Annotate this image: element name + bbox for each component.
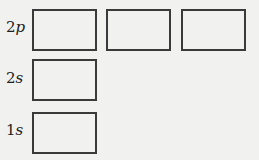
orbital-box-1s xyxy=(32,112,97,154)
orbital-box-2p-2 xyxy=(106,9,171,51)
label-1s: 1s xyxy=(6,121,23,139)
orbital-box-2p-1 xyxy=(32,9,97,51)
label-1s-level: 1 xyxy=(6,121,16,139)
label-2p: 2p xyxy=(6,18,25,36)
label-2s-sublevel: s xyxy=(16,69,24,87)
label-2s: 2s xyxy=(6,69,23,87)
label-2s-level: 2 xyxy=(6,69,16,87)
label-2p-sublevel: p xyxy=(16,18,26,36)
orbital-box-2p-3 xyxy=(181,9,246,51)
orbital-box-2s xyxy=(32,59,97,101)
label-1s-sublevel: s xyxy=(16,121,24,139)
label-2p-level: 2 xyxy=(6,18,16,36)
